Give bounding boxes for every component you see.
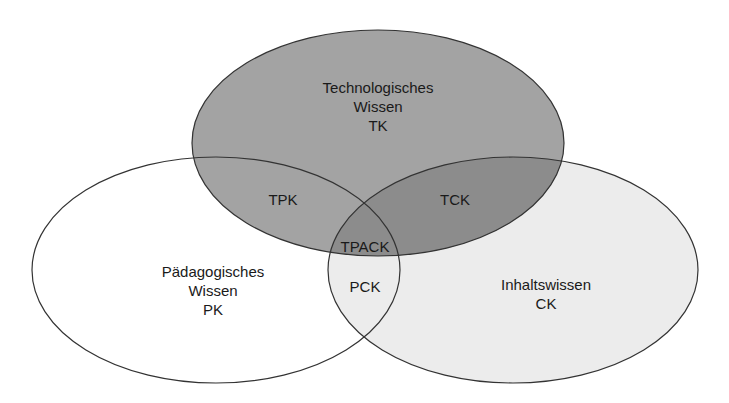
tpack-label: TPACK (341, 237, 390, 256)
tpk-label: TPK (268, 190, 297, 209)
tck-label: TCK (440, 190, 470, 209)
tk-label: Technologisches Wissen TK (323, 78, 434, 135)
venn-diagram (0, 0, 729, 403)
ck-label: Inhaltswissen CK (501, 275, 591, 313)
pk-label: Pädagogisches Wissen PK (162, 262, 265, 319)
pck-label: PCK (350, 277, 381, 296)
